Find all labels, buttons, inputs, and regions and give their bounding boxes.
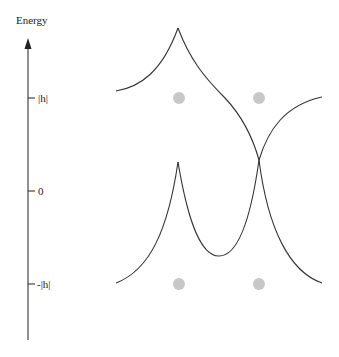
- upper-descending-branch: [178, 28, 259, 160]
- lower-valley-left: [178, 162, 219, 256]
- energy-level-diagram: Energy |h| 0 -|h|: [0, 0, 339, 357]
- lower-left-branch: [116, 162, 178, 283]
- axis-title: Energy: [16, 14, 48, 26]
- upper-left-branch: [116, 28, 178, 91]
- upper-right-branch: [259, 97, 322, 160]
- lower-valley-right: [219, 160, 259, 256]
- lower-right-branch: [259, 160, 322, 283]
- dot-upper-right: [253, 92, 265, 104]
- tick-label-h: |h|: [38, 92, 48, 104]
- dot-lower-right: [253, 278, 265, 290]
- dot-lower-left: [173, 278, 185, 290]
- dot-upper-left: [173, 92, 185, 104]
- axis-arrow-icon: [25, 38, 32, 49]
- upper-band-curves: [116, 28, 322, 160]
- state-dots: [173, 92, 265, 290]
- tick-label-neg-h: -|h|: [37, 278, 51, 290]
- lower-band-curves: [116, 160, 322, 283]
- tick-label-zero: 0: [38, 185, 44, 197]
- energy-axis: Energy |h| 0 -|h|: [16, 14, 51, 340]
